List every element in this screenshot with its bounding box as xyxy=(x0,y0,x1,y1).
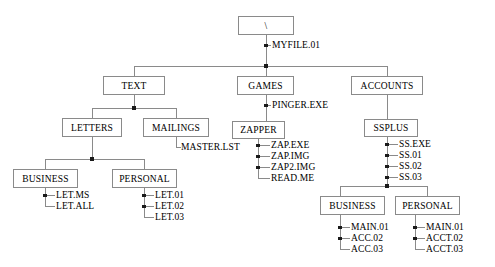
file-label: SS.03 xyxy=(399,173,422,183)
file-label: ACC.02 xyxy=(351,234,383,244)
file-label: LET.01 xyxy=(155,191,184,201)
node-ssplus-personal[interactable]: PERSONAL xyxy=(395,196,460,215)
file-label: PINGER.EXE xyxy=(272,101,328,111)
file-label: MYFILE.01 xyxy=(272,41,320,51)
node-text[interactable]: TEXT xyxy=(103,76,165,95)
node-games[interactable]: GAMES xyxy=(237,76,294,95)
file-label: SS.02 xyxy=(399,162,422,172)
file-label: SS.EXE xyxy=(399,140,431,150)
file-label: MAIN.01 xyxy=(351,223,389,233)
file-label: ZAP.IMG xyxy=(271,152,309,162)
node-ssplus[interactable]: SSPLUS xyxy=(364,119,418,137)
file-label: SS.01 xyxy=(399,151,422,161)
file-label: ZAP2.IMG xyxy=(271,163,315,173)
file-label: ACC.03 xyxy=(351,245,383,255)
file-label: LET.MS xyxy=(56,191,89,201)
node-root[interactable]: \ xyxy=(238,16,294,35)
file-label: MAIN.01 xyxy=(426,223,464,233)
node-ssplus-business[interactable]: BUSINESS xyxy=(320,196,385,215)
file-label: READ.ME xyxy=(271,174,314,184)
file-label: LET.02 xyxy=(155,202,184,212)
file-label: MASTER.LST xyxy=(181,143,240,153)
file-label: ZAP.EXE xyxy=(271,141,309,151)
node-letters[interactable]: LETTERS xyxy=(62,118,122,137)
node-zapper[interactable]: ZAPPER xyxy=(232,121,285,139)
node-accounts[interactable]: ACCOUNTS xyxy=(351,76,423,95)
file-label: LET.03 xyxy=(155,213,184,223)
directory-tree-diagram: \ TEXT GAMES ACCOUNTS LETTERS MAILINGS Z… xyxy=(0,0,495,267)
node-mailings[interactable]: MAILINGS xyxy=(143,118,209,137)
file-label: ACCT.03 xyxy=(426,245,463,255)
node-letters-personal[interactable]: PERSONAL xyxy=(112,169,177,188)
file-label: LET.ALL xyxy=(56,202,94,212)
file-label: ACCT.02 xyxy=(426,234,463,244)
node-letters-business[interactable]: BUSINESS xyxy=(13,169,78,188)
